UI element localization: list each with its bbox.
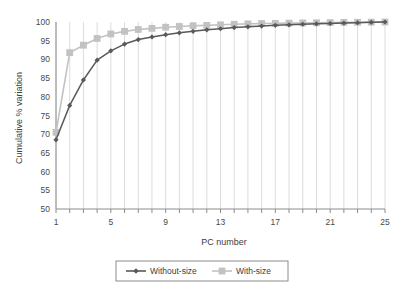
x-axis-title: PC number [201, 237, 247, 247]
plot-gridlines [56, 22, 385, 209]
y-tick-label-80: 80 [41, 92, 51, 102]
x-axis-tick-labels: 15913172125 [54, 217, 390, 227]
y-axis-tick-labels: 50556065707580859095100 [36, 17, 50, 214]
data-point-with-size-pc11 [190, 22, 197, 29]
y-axis-title: Cumulative % variation [14, 72, 24, 164]
y-tick-label-50: 50 [41, 204, 51, 214]
y-tick-label-65: 65 [41, 148, 51, 158]
x-tick-label-1: 1 [54, 217, 59, 227]
y-tick-label-75: 75 [41, 111, 51, 121]
legend-label-with-size: With-size [236, 266, 271, 276]
chart-figure: 50556065707580859095100 15913172125 PC n… [0, 0, 402, 293]
x-tick-label-9: 9 [163, 217, 168, 227]
legend-marker-with-size [219, 268, 226, 275]
data-point-with-size-pc5 [107, 31, 114, 38]
data-point-without-size-pc11 [190, 29, 195, 34]
data-point-without-size-pc10 [177, 30, 182, 35]
y-tick-label-70: 70 [41, 129, 51, 139]
y-tick-label-60: 60 [41, 167, 51, 177]
data-point-without-size-pc8 [149, 34, 154, 39]
legend-label-without-size: Without-size [150, 266, 197, 276]
data-point-with-size-pc4 [94, 35, 101, 42]
data-point-with-size-pc6 [121, 28, 128, 35]
data-point-with-size-pc10 [176, 23, 183, 30]
data-point-with-size-pc2 [66, 49, 73, 56]
data-point-with-size-pc7 [135, 26, 142, 33]
x-tick-label-25: 25 [380, 217, 390, 227]
data-point-without-size-pc7 [136, 37, 141, 42]
cumulative-variation-line-chart: 50556065707580859095100 15913172125 PC n… [0, 0, 402, 293]
data-point-with-size-pc3 [80, 42, 87, 49]
chart-legend: Without-sizeWith-size [116, 261, 288, 281]
y-tick-label-95: 95 [41, 36, 51, 46]
data-point-without-size-pc9 [163, 32, 168, 37]
y-tick-label-100: 100 [36, 17, 50, 27]
x-tick-label-17: 17 [271, 217, 281, 227]
y-tick-label-90: 90 [41, 54, 51, 64]
data-point-with-size-pc8 [149, 25, 156, 32]
x-axis-tick-marks [56, 209, 385, 213]
x-tick-label-13: 13 [216, 217, 226, 227]
x-tick-label-5: 5 [108, 217, 113, 227]
data-point-with-size-pc9 [162, 24, 169, 31]
data-point-without-size-pc1 [53, 137, 58, 142]
x-tick-label-21: 21 [325, 217, 335, 227]
y-tick-label-55: 55 [41, 185, 51, 195]
y-tick-label-85: 85 [41, 73, 51, 83]
data-point-without-size-pc6 [122, 41, 127, 46]
